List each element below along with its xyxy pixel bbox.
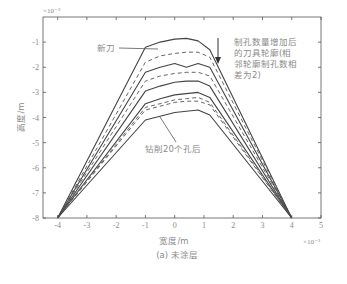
- x-axis-title: 宽度/m: [159, 236, 188, 246]
- y-tick-label: -7: [32, 189, 39, 198]
- x-tick-label: -3: [84, 221, 91, 230]
- chart: -4-3-2-1012345-1-2-3-4-5-6-7-8 ×10⁻³ ×10…: [0, 0, 347, 284]
- x-tick-label: -4: [54, 221, 61, 230]
- annotation-note-line-1: 制孔数量增加后: [234, 37, 297, 47]
- x-tick-label: 3: [260, 221, 264, 230]
- after-20-leader-line: [160, 117, 176, 142]
- x-exponent-label: ×10⁻³: [303, 238, 320, 246]
- annotation-note-line-4: 差为2): [234, 70, 261, 80]
- x-tick-label: 2: [231, 221, 235, 230]
- y-tick-label: -6: [32, 164, 39, 173]
- x-tick-label: 0: [173, 221, 177, 230]
- x-tick-label: 5: [319, 221, 323, 230]
- y-tick-label: -3: [32, 88, 39, 97]
- annotation-new-tool: 新刀: [97, 43, 115, 53]
- annotation-note-line-3: 邻轮廓制孔数相: [234, 59, 297, 69]
- x-tick-label: 4: [290, 221, 294, 230]
- x-tick-label: 1: [202, 221, 206, 230]
- x-tick-label: -1: [142, 221, 149, 230]
- caption: (a) 未涂层: [156, 250, 198, 260]
- y-tick-label: -4: [32, 114, 39, 123]
- annotation-after-20-holes: 钻削20个孔后: [145, 144, 201, 154]
- y-tick-label: -8: [32, 214, 39, 223]
- y-exponent-label: ×10⁻³: [43, 7, 60, 15]
- y-tick-label: -2: [32, 63, 39, 72]
- down-arrow-icon: [215, 38, 221, 64]
- annotation-note-line-2: 的刀具轮廓(相: [234, 48, 291, 58]
- labels-layer: ×10⁻³ ×10⁻³ 宽度/m (a) 未涂层 高度/m 新刀 钻削20个孔后…: [16, 7, 320, 260]
- y-tick-label: -5: [32, 139, 39, 148]
- x-tick-label: -2: [113, 221, 120, 230]
- series-line-3: [58, 64, 292, 219]
- y-axis-title: 高度/m: [16, 102, 26, 131]
- y-tick-label: -1: [32, 38, 39, 47]
- new-tool-leader-line: [119, 48, 158, 49]
